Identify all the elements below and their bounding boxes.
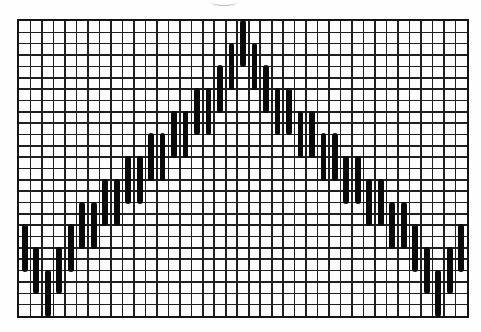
stitch-bar xyxy=(332,133,338,180)
stitch-bar xyxy=(252,43,258,90)
grid-line xyxy=(19,304,467,306)
stitch-bar xyxy=(275,88,281,135)
stitch-bar xyxy=(125,156,131,203)
stitch-bar xyxy=(343,156,349,203)
grid-line xyxy=(19,293,467,295)
stitch-bar xyxy=(194,88,200,135)
stitch-bar xyxy=(171,111,177,158)
grid-line xyxy=(19,156,467,158)
grid-line xyxy=(19,111,467,113)
stitch-bar xyxy=(321,133,327,180)
grid-line xyxy=(19,145,467,147)
stitch-bar xyxy=(424,247,430,294)
stitch-bar xyxy=(229,43,235,90)
stitch-bar xyxy=(102,179,108,226)
stitch-bar xyxy=(286,88,292,135)
stitch-bar xyxy=(183,111,189,158)
stitch-bar xyxy=(240,20,246,67)
scan-smudge xyxy=(211,0,237,6)
grid-line xyxy=(19,134,467,136)
stitch-bar xyxy=(217,65,223,112)
stitch-bar xyxy=(355,156,361,203)
stitch-bar xyxy=(160,133,166,180)
stitch-bar xyxy=(366,179,372,226)
stitch-bar xyxy=(114,179,120,226)
grid-line xyxy=(19,202,467,204)
stitch-bar xyxy=(447,247,453,294)
grid-line xyxy=(19,100,467,102)
stitch-bar xyxy=(91,202,97,249)
stitch-bar xyxy=(137,156,143,203)
pattern-grid xyxy=(17,19,469,318)
grid-line xyxy=(19,179,467,181)
grid-line xyxy=(19,247,467,249)
stitch-bar xyxy=(263,65,269,112)
stitch-bar xyxy=(22,224,28,271)
grid-line xyxy=(19,122,467,124)
grid-line xyxy=(19,168,467,170)
stitch-bar xyxy=(33,247,39,294)
grid-line xyxy=(19,270,467,272)
stitch-bar xyxy=(68,224,74,271)
stitch-bar xyxy=(389,202,395,249)
bargello-chart xyxy=(0,0,481,332)
grid-line xyxy=(19,77,467,79)
grid-line xyxy=(19,190,467,192)
stitch-bar xyxy=(309,111,315,158)
grid-line xyxy=(19,224,467,226)
grid-line xyxy=(19,258,467,260)
stitch-bar xyxy=(378,179,384,226)
stitch-bar xyxy=(458,224,464,271)
grid-line xyxy=(19,213,467,215)
stitch-bar xyxy=(412,224,418,271)
stitch-bar xyxy=(45,270,51,317)
stitch-bar xyxy=(206,88,212,135)
stitch-bar xyxy=(401,202,407,249)
stitch-bar xyxy=(435,270,441,317)
grid-line xyxy=(19,281,467,283)
grid-line xyxy=(19,236,467,238)
stitch-bar xyxy=(56,247,62,294)
stitch-bar xyxy=(298,111,304,158)
stitch-bar xyxy=(148,133,154,180)
stitch-bar xyxy=(79,202,85,249)
grid-line xyxy=(19,88,467,90)
